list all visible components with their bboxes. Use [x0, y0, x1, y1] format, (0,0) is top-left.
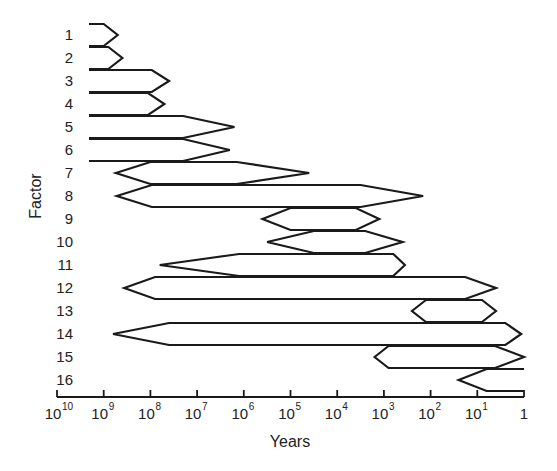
y-axis-title: Factor: [27, 173, 44, 219]
x-tick-label: 10: [418, 405, 435, 422]
x-axis: 10101091081071061051041031021011: [45, 390, 529, 422]
x-tick-exponent: 4: [342, 401, 348, 412]
range-bar-factor-3: [89, 70, 169, 92]
factor-label: 10: [56, 233, 73, 250]
factor-label: 2: [65, 49, 73, 66]
range-bar-factor-5: [89, 116, 234, 138]
x-tick-label: 10: [325, 405, 342, 422]
factor-label: 5: [65, 118, 73, 135]
x-tick-label: 10: [185, 405, 202, 422]
x-tick-label: 10: [45, 405, 62, 422]
x-tick-label: 10: [91, 405, 108, 422]
x-tick-exponent: 9: [109, 401, 115, 412]
x-tick-label: 10: [278, 405, 295, 422]
range-bar-factor-1: [89, 24, 118, 46]
x-tick-exponent: 2: [436, 401, 442, 412]
x-axis-ticks: 10101091081071061051041031021011: [45, 390, 529, 422]
range-bar-factor-9: [262, 208, 379, 230]
x-tick-label: 10: [372, 405, 389, 422]
x-tick-label: 10: [231, 405, 248, 422]
factor-label: 3: [65, 72, 73, 89]
factor-label: 13: [56, 302, 73, 319]
range-bar-factor-15: [375, 346, 524, 368]
x-tick-label: 1: [520, 405, 528, 422]
range-bar-factor-11: [160, 254, 405, 276]
x-tick-exponent: 8: [155, 401, 161, 412]
x-tick-exponent: 5: [296, 401, 302, 412]
factor-label: 1: [65, 26, 73, 43]
range-bar-factor-10: [267, 231, 402, 253]
range-bar-factor-7: [116, 162, 309, 184]
factor-label: 8: [65, 187, 73, 204]
x-tick-exponent: 3: [389, 401, 395, 412]
factor-label: 14: [56, 325, 73, 342]
factor-label: 9: [65, 210, 73, 227]
range-bars: [89, 24, 524, 391]
x-tick-label: 10: [465, 405, 482, 422]
x-axis-title: Years: [270, 433, 310, 450]
factor-labels: 12345678910111213141516: [56, 26, 73, 388]
factor-timescale-chart: 12345678910111213141516 1010109108107106…: [0, 0, 557, 471]
x-tick-exponent: 7: [202, 401, 208, 412]
factor-label: 6: [65, 141, 73, 158]
factor-label: 15: [56, 348, 73, 365]
x-tick-exponent: 6: [249, 401, 255, 412]
range-bar-factor-4: [89, 93, 164, 115]
range-bar-factor-8: [117, 185, 423, 207]
x-tick-exponent: 1: [482, 401, 488, 412]
factor-label: 12: [56, 279, 73, 296]
factor-label: 11: [57, 256, 73, 273]
range-bar-factor-6: [89, 139, 230, 161]
x-tick-exponent: 10: [62, 401, 74, 412]
range-bar-factor-16: [459, 369, 524, 391]
range-bar-factor-13: [412, 300, 496, 322]
factor-label: 7: [65, 164, 73, 181]
x-tick-label: 10: [138, 405, 155, 422]
factor-label: 16: [56, 371, 73, 388]
range-bar-factor-12: [124, 277, 496, 299]
factor-label: 4: [65, 95, 73, 112]
range-bar-factor-2: [89, 47, 122, 69]
range-bar-factor-14: [113, 323, 521, 345]
